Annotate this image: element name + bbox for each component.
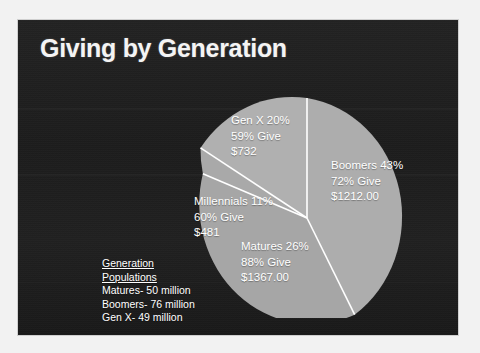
pie-label-boomers-give: 72% Give xyxy=(331,174,403,190)
pie-label-matures-amount: $1367.00 xyxy=(241,270,309,286)
pie-label-boomers-share: Boomers 43% xyxy=(331,158,403,174)
pie-label-boomers: Boomers 43% 72% Give $1212.00 xyxy=(331,158,403,205)
population-legend-heading-line1: Generation xyxy=(102,257,195,271)
pie-label-matures: Matures 26% 88% Give $1367.00 xyxy=(241,239,309,286)
population-legend-row-genx: Gen X- 49 million xyxy=(102,311,195,325)
pie-label-millennials-give: 60% Give xyxy=(194,210,273,226)
pie-label-genx-give: 59% Give xyxy=(231,129,290,145)
pie-label-genx-share: Gen X 20% xyxy=(231,113,290,129)
screenshot-canvas: Giving by Generation xyxy=(0,0,480,353)
pie-label-boomers-amount: $1212.00 xyxy=(331,189,403,205)
pie-label-millennials: Millennials 11% 60% Give $481 xyxy=(194,194,273,241)
pie-label-genx: Gen X 20% 59% Give $732 xyxy=(231,113,290,160)
presentation-slide: Giving by Generation xyxy=(18,20,458,335)
population-legend: Generation Populations Matures- 50 milli… xyxy=(102,257,195,325)
pie-label-matures-share: Matures 26% xyxy=(241,239,309,255)
population-legend-row-boomers: Boomers- 76 million xyxy=(102,298,195,312)
population-legend-heading-line2: Populations xyxy=(102,271,195,285)
pie-label-millennials-share: Millennials 11% xyxy=(194,194,273,210)
pie-label-genx-amount: $732 xyxy=(231,144,290,160)
population-legend-row-matures: Matures- 50 million xyxy=(102,284,195,298)
pie-label-matures-give: 88% Give xyxy=(241,255,309,271)
